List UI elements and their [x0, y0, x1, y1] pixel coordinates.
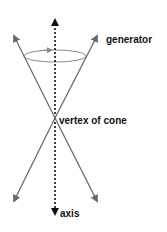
- generator-line-left-lower: [14, 118, 55, 201]
- generator-line-right-upper: [55, 36, 97, 118]
- generator-line-right-lower: [55, 118, 97, 201]
- vertex-label: vertex of cone: [59, 115, 127, 126]
- cone-diagram: generator vertex of cone axis: [0, 0, 167, 232]
- generator-label: generator: [106, 34, 152, 45]
- generator-line-left-upper: [14, 36, 55, 118]
- axis-label: axis: [60, 208, 80, 219]
- rotation-arrow-icon: [40, 50, 51, 51]
